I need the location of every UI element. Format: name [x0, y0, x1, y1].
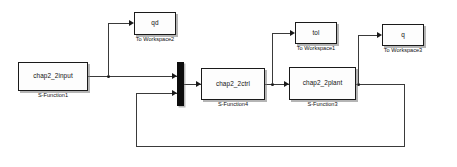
wire-branch-to-tol [272, 33, 292, 34]
block-label-tol: tol [312, 30, 319, 36]
block-chap2-2plant[interactable]: chap2_2plant [289, 67, 356, 100]
block-tol[interactable]: tol [295, 22, 337, 44]
wire-feedback-up [136, 93, 137, 147]
wire-input-branch-up [108, 23, 109, 76]
block-label-ctrl: chap2_2ctrl [216, 81, 250, 87]
block-q[interactable]: q [382, 24, 424, 46]
wire-branch-to-qd [108, 23, 131, 24]
block-label-plant: chap2_2plant [303, 80, 343, 86]
block-label-input: chap2_2input [33, 73, 73, 79]
mux[interactable] [177, 62, 184, 106]
block-chap2-2input[interactable]: chap2_2input [18, 62, 88, 91]
wire-plant-output [356, 84, 405, 85]
caption-to-workspace1: To Workspace1 [281, 46, 351, 52]
caption-s-function1: S-Function1 [18, 93, 88, 99]
wire-feedback-down [404, 84, 405, 146]
block-label-q: q [401, 32, 405, 38]
caption-to-workspace2: To Workspace2 [120, 37, 190, 43]
wire-input-to-mux [88, 76, 177, 77]
block-label-qd: qd [151, 20, 158, 26]
block-qd[interactable]: qd [134, 12, 176, 35]
block-chap2-2ctrl[interactable]: chap2_2ctrl [201, 68, 265, 100]
simulink-diagram-canvas: chap2_2input S-Function1 qd To Workspace… [0, 0, 457, 167]
caption-to-workspace3: To Workspace3 [368, 48, 438, 54]
wire-plant-branch-up [358, 35, 359, 84]
wire-feedback-to-mux [137, 93, 177, 94]
caption-s-function4: S-Function4 [201, 102, 265, 108]
wire-ctrl-branch-up [272, 33, 273, 84]
wire-branch-to-q [358, 35, 379, 36]
caption-s-function3: S-Function3 [289, 102, 356, 108]
wire-feedback-left [136, 146, 405, 147]
